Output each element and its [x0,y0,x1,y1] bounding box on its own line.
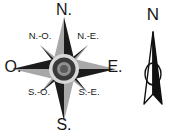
compass-rose: N. S. O. E. N.-O. N.-E. S.-O. S.-E. [0,0,128,137]
north-arrow-label: N [128,6,178,23]
rose-label-northeast: N.-E. [70,31,106,41]
rose-label-south: S. [0,117,128,133]
rose-hub [49,54,79,84]
rose-label-southwest: S.-O. [21,87,57,97]
rose-label-east: E. [104,59,126,75]
north-arrow: N [128,0,178,137]
rose-label-northwest: N.-O. [22,31,58,41]
north-arrow-graphic [140,30,166,110]
north-arrow-left-half [144,32,153,104]
rose-label-north: N. [0,2,128,18]
rose-label-west: O. [2,59,24,75]
compass-figure: N. S. O. E. N.-O. N.-E. S.-O. S.-E. N [0,0,178,137]
rose-label-southeast: S.-E. [71,87,107,97]
